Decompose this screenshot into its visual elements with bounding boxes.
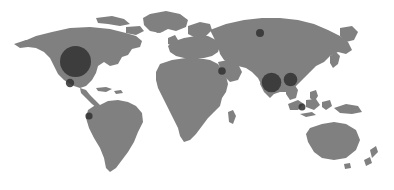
world-map-figure (0, 0, 394, 190)
world-map-svg (0, 0, 394, 190)
bubble-southeast-asia[interactable] (299, 104, 306, 111)
bubble-east-asia[interactable] (284, 73, 298, 87)
bubble-middle-east[interactable] (218, 67, 226, 75)
bubble-south-asia[interactable] (262, 73, 282, 93)
bubble-north-asia[interactable] (256, 29, 264, 37)
bubble-mexico[interactable] (66, 79, 74, 87)
land-tasmania (344, 163, 351, 169)
bubble-north-america[interactable] (60, 46, 91, 77)
bubble-south-america[interactable] (85, 112, 92, 119)
